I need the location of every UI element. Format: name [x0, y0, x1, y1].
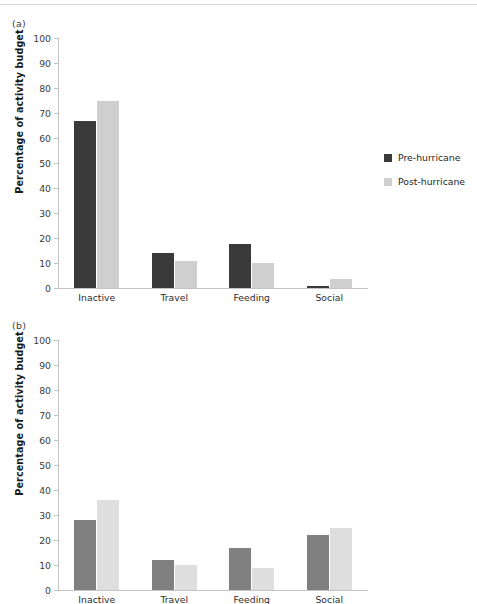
bar-travel-pre-hurricane [152, 253, 174, 288]
plot-area-a: 0102030405060708090100InactiveTravelFeed… [58, 38, 368, 288]
y-axis-tick-label: 50 [39, 460, 51, 471]
y-axis-tick [54, 38, 58, 39]
x-axis-line-a [58, 288, 368, 289]
chart-panel-b: (b) Percentage of activity budget 010203… [0, 308, 477, 604]
y-axis-label-b: Percentage of activity budget [14, 319, 25, 509]
y-axis-tick-label: 0 [45, 283, 51, 294]
y-axis-tick-label: 100 [33, 335, 51, 346]
y-axis-tick [54, 490, 58, 491]
y-axis-tick [54, 415, 58, 416]
x-axis-label-social: Social [315, 594, 343, 604]
y-axis-tick-label: 40 [39, 183, 51, 194]
y-axis-tick-label: 40 [39, 485, 51, 496]
y-axis-tick [54, 590, 58, 591]
x-axis-label-travel: Travel [160, 594, 188, 604]
y-axis-tick [54, 188, 58, 189]
bar-feeding-pre-hurricane [229, 548, 251, 591]
legend-item-pre-hurricane: Pre-hurricane [384, 152, 465, 163]
y-axis-tick-label: 90 [39, 360, 51, 371]
y-axis-tick-label: 30 [39, 208, 51, 219]
y-axis-tick [54, 163, 58, 164]
legend-label: Pre-hurricane [398, 152, 460, 163]
y-axis-line-b [58, 340, 59, 590]
y-axis-tick [54, 63, 58, 64]
y-axis-tick-label: 50 [39, 158, 51, 169]
y-axis-tick-label: 60 [39, 133, 51, 144]
bar-inactive-post-hurricane [97, 101, 119, 289]
y-axis-tick [54, 340, 58, 341]
y-axis-tick [54, 138, 58, 139]
y-axis-tick [54, 288, 58, 289]
y-axis-tick [54, 113, 58, 114]
bar-social-pre-hurricane [307, 286, 329, 289]
y-axis-tick-label: 30 [39, 510, 51, 521]
y-axis-tick-label: 80 [39, 385, 51, 396]
y-axis-tick [54, 565, 58, 566]
y-axis-tick [54, 213, 58, 214]
y-axis-tick-label: 0 [45, 585, 51, 596]
x-axis-line-b [58, 590, 368, 591]
y-axis-tick-label: 60 [39, 435, 51, 446]
x-axis-label-inactive: Inactive [78, 594, 115, 604]
y-axis-label-a: Percentage of activity budget [14, 17, 25, 207]
bar-social-post-hurricane [330, 528, 352, 591]
y-axis-tick [54, 540, 58, 541]
y-axis-tick [54, 465, 58, 466]
legend-a: Pre-hurricanePost-hurricane [384, 152, 465, 200]
y-axis-tick [54, 365, 58, 366]
x-axis-label-inactive: Inactive [78, 292, 115, 303]
x-axis-label-feeding: Feeding [233, 292, 270, 303]
y-axis-tick-label: 20 [39, 233, 51, 244]
top-divider-rule [0, 4, 477, 5]
y-axis-tick [54, 238, 58, 239]
bar-travel-pre-hurricane [152, 560, 174, 590]
y-axis-tick-label: 70 [39, 108, 51, 119]
y-axis-tick-label: 90 [39, 58, 51, 69]
bar-feeding-post-hurricane [252, 568, 274, 591]
y-axis-tick-label: 10 [39, 560, 51, 571]
chart-panel-a: (a) Percentage of activity budget 010203… [0, 6, 477, 308]
x-axis-label-social: Social [315, 292, 343, 303]
legend-item-post-hurricane: Post-hurricane [384, 176, 465, 187]
bar-social-post-hurricane [330, 279, 352, 288]
y-axis-tick [54, 440, 58, 441]
y-axis-tick-label: 20 [39, 535, 51, 546]
y-axis-line-a [58, 38, 59, 288]
bar-feeding-pre-hurricane [229, 244, 251, 288]
x-axis-label-feeding: Feeding [233, 594, 270, 604]
y-axis-tick [54, 515, 58, 516]
y-axis-tick-label: 100 [33, 33, 51, 44]
y-axis-tick [54, 390, 58, 391]
legend-swatch-icon [384, 178, 392, 186]
bar-social-pre-hurricane [307, 535, 329, 590]
x-axis-label-travel: Travel [160, 292, 188, 303]
y-axis-tick [54, 263, 58, 264]
legend-label: Post-hurricane [398, 176, 465, 187]
bar-inactive-post-hurricane [97, 500, 119, 590]
bar-travel-post-hurricane [175, 261, 197, 289]
bar-travel-post-hurricane [175, 565, 197, 590]
y-axis-tick-label: 10 [39, 258, 51, 269]
bar-inactive-pre-hurricane [74, 121, 96, 289]
bar-feeding-post-hurricane [252, 263, 274, 288]
bar-inactive-pre-hurricane [74, 520, 96, 590]
plot-area-b: 0102030405060708090100InactiveTravelFeed… [58, 340, 368, 590]
y-axis-tick [54, 88, 58, 89]
y-axis-tick-label: 70 [39, 410, 51, 421]
legend-swatch-icon [384, 154, 392, 162]
y-axis-tick-label: 80 [39, 83, 51, 94]
